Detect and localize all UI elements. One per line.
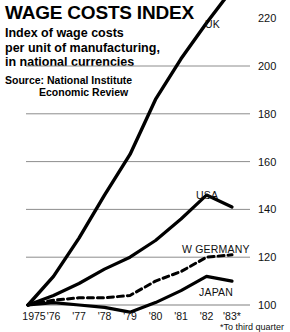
series-label-usa: USA: [196, 189, 218, 201]
x-axis-label-5: '80: [149, 310, 163, 322]
y-axis-label-220: 220: [258, 12, 288, 24]
y-axis-label-120: 120: [258, 251, 288, 263]
y-axis-label-160: 160: [258, 156, 288, 168]
x-axis-label-3: '78: [98, 310, 112, 322]
y-axis-label-200: 200: [258, 60, 288, 72]
y-axis-label-180: 180: [258, 108, 288, 120]
series-label-japan: JAPAN: [199, 286, 233, 298]
y-axis-label-140: 140: [258, 203, 288, 215]
series-label-w-germany: W GERMANY: [182, 243, 250, 255]
x-axis-label-1: '76: [47, 310, 61, 322]
x-axis-label-7: '82: [200, 310, 214, 322]
chart-page: WAGE COSTS INDEX Index of wage costs per…: [0, 0, 290, 332]
x-axis-label-8: '83*: [223, 310, 241, 322]
y-axis-label-100: 100: [258, 299, 288, 311]
x-axis-label-4: '79: [123, 310, 137, 322]
x-axis-label-2: '77: [72, 310, 86, 322]
x-axis-label-0: 1975: [22, 310, 45, 322]
series-lines: [28, 0, 232, 312]
x-axis-label-6: '81: [174, 310, 188, 322]
series-label-uk: UK: [205, 18, 220, 30]
chart-footnote: *To third quarter: [220, 322, 284, 332]
line-chart-plot: [0, 0, 290, 332]
